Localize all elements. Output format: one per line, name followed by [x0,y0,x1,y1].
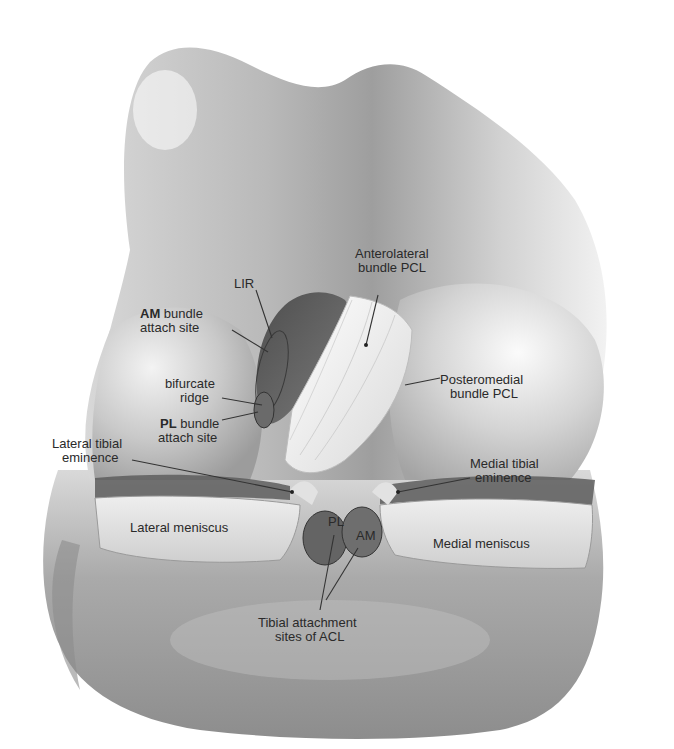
label-footprint-pl: PL [328,514,344,529]
label-bifurcate-line1: bifurcate [165,376,215,391]
label-posteromedial-line1: Posteromedial [440,372,523,387]
label-am-attach-site-line1: AM bundle [140,306,203,321]
label-pl-attach-site-line2: attach site [158,430,217,445]
knee-anatomy-figure: LIR AM bundle attach site bifurcate ridg… [0,0,674,749]
pl-bundle-attach-site [254,392,274,428]
label-medial-meniscus: Medial meniscus [433,536,530,551]
label-lateral-eminence-line1: Lateral tibial [52,436,122,451]
label-tibial-acl-line1: Tibial attachment [258,615,357,630]
label-footprint-am: AM [356,528,376,543]
medial-meniscus [380,499,593,568]
label-medial-eminence-line1: Medial tibial [470,456,539,471]
label-am-attach-site-line2: attach site [140,320,199,335]
label-anterolateral-line2: bundle PCL [358,260,426,275]
label-medial-eminence-line2: eminence [475,470,531,485]
label-anterolateral-line1: Anterolateral [355,246,429,261]
label-posteromedial-line2: bundle PCL [450,386,518,401]
label-pl-attach-site-line1: PL bundle [160,416,219,431]
label-lateral-meniscus: Lateral meniscus [130,520,229,535]
label-bifurcate-line2: ridge [180,390,209,405]
label-lir: LIR [234,276,254,291]
label-tibial-acl-line2: sites of ACL [275,629,344,644]
label-lateral-eminence-line2: eminence [62,450,118,465]
